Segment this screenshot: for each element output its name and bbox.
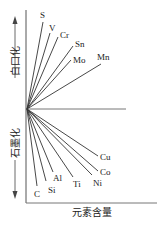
down-label-group: 石墨化 — [9, 128, 21, 199]
line-mo — [27, 60, 71, 109]
label-al: Al — [53, 173, 62, 183]
label-cr: Cr — [60, 30, 69, 40]
up-label-group: 白口化 — [9, 16, 21, 78]
label-sn: Sn — [75, 39, 85, 49]
up-label: 白口化 — [9, 46, 21, 76]
label-ti: Ti — [73, 179, 81, 189]
label-mn: Mn — [97, 52, 110, 62]
down-label: 石墨化 — [9, 128, 21, 158]
line-mn — [27, 64, 101, 109]
graphitizing-lines: CSiAlTiNiCoCu — [27, 109, 111, 199]
label-co: Co — [100, 167, 111, 177]
label-mo: Mo — [73, 55, 86, 65]
label-ni: Ni — [93, 178, 102, 188]
x-axis-label: 元素含量 — [72, 206, 112, 218]
label-s: S — [40, 10, 45, 20]
diagram-svg: 白口化 石墨化 元素含量 SVCrSnMoMn CSiAlTiNiCoCu — [0, 0, 167, 226]
diagram-canvas: 白口化 石墨化 元素含量 SVCrSnMoMn CSiAlTiNiCoCu — [0, 0, 167, 226]
label-v: V — [49, 23, 56, 33]
down-arrowhead-icon — [13, 191, 18, 199]
label-c: C — [34, 189, 40, 199]
label-si: Si — [48, 185, 56, 195]
label-cu: Cu — [100, 152, 111, 162]
up-arrowhead-icon — [13, 16, 18, 24]
whitening-lines: SVCrSnMoMn — [27, 10, 110, 109]
line-ni — [27, 109, 92, 175]
